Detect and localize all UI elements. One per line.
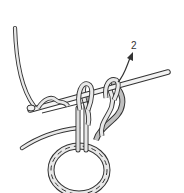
foundation-chain-ring (51, 146, 107, 193)
crochet-diagram: 2 (0, 0, 184, 193)
crochet-hook (27, 72, 168, 113)
direction-arrow (118, 52, 133, 82)
working-yarn (15, 28, 34, 106)
step-number-label: 2 (131, 41, 137, 51)
